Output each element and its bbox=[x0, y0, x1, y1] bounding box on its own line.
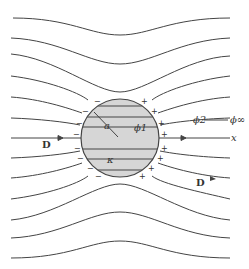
label-phi1: ϕ1 bbox=[134, 122, 147, 133]
svg-text:−: − bbox=[76, 119, 83, 128]
svg-text:+: + bbox=[148, 164, 155, 173]
svg-text:−: − bbox=[82, 107, 89, 116]
label-phi-infinity: ϕ∞ bbox=[230, 114, 245, 125]
label-radius-a: a bbox=[104, 120, 110, 131]
label-d-left: D bbox=[42, 139, 51, 150]
svg-text:+: + bbox=[161, 144, 168, 153]
dielectric-sphere-diagram: − − − − − − − − + + + + + + + + a ϕ1 κ ϕ… bbox=[0, 0, 249, 269]
label-x-axis: x bbox=[231, 132, 237, 143]
svg-text:−: − bbox=[87, 164, 94, 173]
svg-text:−: − bbox=[74, 144, 81, 153]
svg-text:−: − bbox=[95, 172, 102, 181]
label-d-right: D bbox=[196, 177, 205, 188]
svg-text:+: + bbox=[141, 97, 148, 106]
svg-text:−: − bbox=[94, 97, 101, 106]
svg-text:+: + bbox=[151, 107, 158, 116]
svg-text:+: + bbox=[139, 172, 146, 181]
label-kappa: κ bbox=[106, 154, 114, 165]
svg-text:+: + bbox=[161, 130, 168, 139]
svg-text:−: − bbox=[73, 130, 80, 139]
svg-text:+: + bbox=[158, 119, 165, 128]
arrow-right-icon bbox=[181, 136, 186, 141]
arrow-left-icon bbox=[58, 136, 63, 141]
svg-text:−: − bbox=[77, 154, 84, 163]
svg-text:+: + bbox=[157, 154, 164, 163]
